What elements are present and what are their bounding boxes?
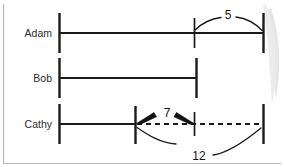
timeline-diagram: Adam 5 Bob Cathy: [0, 0, 284, 167]
row-label-bob: Bob: [33, 72, 52, 84]
measure-label-5: 5: [225, 8, 232, 22]
diagram-canvas: Adam 5 Bob Cathy: [0, 0, 284, 167]
measure-label-12: 12: [192, 149, 206, 163]
row-label-adam: Adam: [25, 27, 53, 39]
measure-label-7: 7: [164, 106, 171, 120]
row-label-cathy: Cathy: [25, 118, 53, 130]
